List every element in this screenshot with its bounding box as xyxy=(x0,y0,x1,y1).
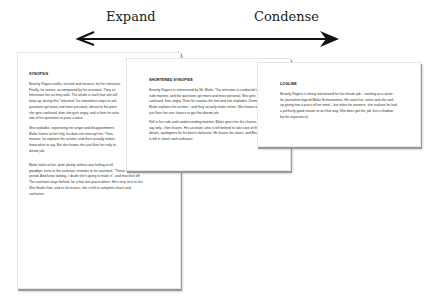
double-headed-arrow-icon xyxy=(74,30,342,48)
page-title: SYNOPSIS xyxy=(29,72,48,76)
paragraph: Beverly Rogers is being interviewed for … xyxy=(280,92,418,121)
page-title: LOGLINE xyxy=(280,82,297,86)
logline-page: LOGLINE Beverly Rogers is being intervie… xyxy=(257,62,421,147)
expand-label: Expand xyxy=(106,9,156,24)
text-line: by the experience). xyxy=(280,115,418,121)
page-title: SHORTENED SYNOPSIS xyxy=(149,78,193,82)
text-line: confusion. xyxy=(29,192,181,198)
condense-label: Condense xyxy=(254,9,319,24)
